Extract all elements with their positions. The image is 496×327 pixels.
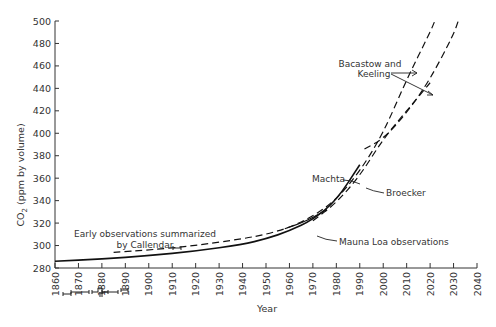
x-axis-title: Year bbox=[256, 303, 277, 314]
x-tick-label: 1950 bbox=[261, 272, 272, 296]
x-tick-label: 1910 bbox=[167, 272, 178, 296]
y-tick-label: 440 bbox=[33, 83, 51, 94]
series-group bbox=[55, 21, 458, 261]
y-tick-label: 500 bbox=[33, 16, 51, 27]
co2-projection-chart: 280300320340360380400420440460480500 186… bbox=[0, 0, 496, 327]
y-tick-label: 340 bbox=[33, 195, 51, 206]
y-tick-label: 280 bbox=[33, 263, 51, 274]
annotations: Early observations summarized by Callend… bbox=[74, 59, 449, 250]
x-tick-label: 1920 bbox=[190, 272, 201, 296]
x-tick-label: 1890 bbox=[120, 272, 131, 296]
x-tick-label: 1870 bbox=[73, 272, 84, 296]
y-tick-label: 300 bbox=[33, 240, 51, 251]
callendar-label-line1: Early observations summarized bbox=[74, 229, 216, 239]
y-tick-label: 400 bbox=[33, 128, 51, 139]
y-tick-label: 360 bbox=[33, 173, 51, 184]
x-tick-label: 2010 bbox=[401, 272, 412, 296]
x-tick-label: 1970 bbox=[307, 272, 318, 296]
bacastow-keeling-label-line2: Keeling bbox=[358, 69, 391, 79]
broecker-arrow bbox=[366, 188, 384, 193]
y-axis-title: CO2 (ppm by volume) bbox=[15, 123, 29, 226]
y-tick-label: 420 bbox=[33, 105, 51, 116]
y-tick-label: 480 bbox=[33, 38, 51, 49]
x-tick-label: 2040 bbox=[472, 272, 483, 296]
mauna-loa-label: Mauna Loa observations bbox=[339, 237, 449, 247]
y-tick-label: 380 bbox=[33, 150, 51, 161]
bacastow-keeling-label-line1: Bacastow and bbox=[338, 59, 401, 69]
x-tick-label: 1860 bbox=[50, 272, 61, 296]
x-tick-label: 1940 bbox=[237, 272, 248, 296]
x-tick-label: 2020 bbox=[425, 272, 436, 296]
series-line-bacastow-and-keeling-upper- bbox=[114, 21, 435, 252]
mauna-loa-arrow bbox=[317, 236, 337, 241]
x-tick-label: 2030 bbox=[448, 272, 459, 296]
x-tick-label: 1900 bbox=[143, 272, 154, 296]
series-line-bacastow-and-keeling-lower- bbox=[364, 21, 458, 149]
x-tick-label: 1960 bbox=[284, 272, 295, 296]
x-tick-label: 2000 bbox=[378, 272, 389, 296]
x-tick-label: 1980 bbox=[331, 272, 342, 296]
x-tick-label: 1930 bbox=[214, 272, 225, 296]
y-tick-label: 460 bbox=[33, 60, 51, 71]
callendar-label-line2: by Callendar bbox=[117, 240, 174, 250]
y-tick-label: 320 bbox=[33, 218, 51, 229]
broecker-label: Broecker bbox=[386, 188, 426, 198]
machta-label: Machta bbox=[312, 174, 345, 184]
x-tick-label: 1990 bbox=[354, 272, 365, 296]
